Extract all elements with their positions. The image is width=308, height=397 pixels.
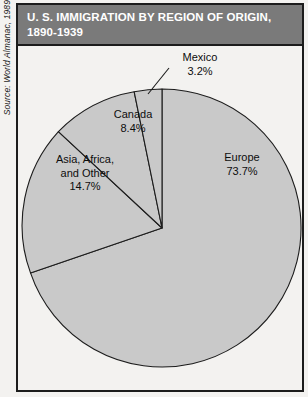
pie-label-canada: Canada 8.4% (95, 108, 171, 135)
chart-panel: U. S. IMMIGRATION BY REGION OF ORIGIN, 1… (16, 3, 304, 392)
pie-label-europe-name: Europe (204, 151, 280, 165)
pie-label-asia-value: 14.7% (33, 180, 137, 194)
pie-label-europe-value: 73.7% (204, 165, 280, 179)
pie-label-asia-name-line1: Asia, Africa, (33, 153, 137, 167)
pie-chart-svg (18, 46, 302, 390)
chart-title-bar: U. S. IMMIGRATION BY REGION OF ORIGIN, 1… (18, 5, 302, 46)
pie-label-mexico-name: Mexico (162, 51, 238, 65)
pie-label-canada-name: Canada (95, 108, 171, 122)
source-credit-text: Source: World Almanac, 1989 (3, 0, 12, 117)
pie-label-asia-name-line2: and Other (33, 167, 137, 181)
source-credit: Source: World Almanac, 1989 (0, 0, 15, 200)
pie-label-mexico: Mexico 3.2% (162, 51, 238, 78)
page-subtitle: 1890-1939 (27, 25, 302, 40)
figure: Source: World Almanac, 1989 U. S. IMMIGR… (0, 0, 308, 397)
page-title: U. S. IMMIGRATION BY REGION OF ORIGIN, (27, 10, 302, 25)
pie-label-canada-value: 8.4% (95, 122, 171, 136)
pie-label-asia-africa-other: Asia, Africa, and Other 14.7% (33, 153, 137, 194)
pie-label-europe: Europe 73.7% (204, 151, 280, 178)
pie-label-mexico-value: 3.2% (162, 65, 238, 79)
pie-chart-plot: Mexico 3.2% Canada 8.4% Asia, Africa, an… (18, 46, 302, 390)
